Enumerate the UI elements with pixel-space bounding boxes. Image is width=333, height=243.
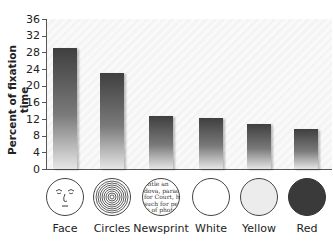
y-tick-label: 12 bbox=[18, 114, 40, 125]
bar-yellow bbox=[247, 124, 271, 169]
y-tick bbox=[42, 152, 46, 153]
yellow-disc-icon bbox=[240, 178, 278, 216]
y-tick bbox=[42, 36, 46, 37]
y-tick bbox=[42, 69, 46, 70]
y-tick bbox=[42, 136, 46, 137]
y-tick-label: 4 bbox=[18, 147, 40, 158]
white-disc-icon bbox=[192, 178, 230, 216]
y-tick bbox=[42, 102, 46, 103]
plot-area bbox=[46, 19, 332, 169]
y-tick bbox=[42, 86, 46, 87]
red-disc-icon bbox=[288, 178, 326, 216]
y-tick-label: 20 bbox=[18, 80, 40, 91]
y-tick bbox=[42, 119, 46, 120]
concentric-circles-icon bbox=[93, 178, 131, 216]
bar-newsprint bbox=[149, 116, 173, 169]
y-tick-label: 8 bbox=[18, 130, 40, 141]
y-tick-label: 0 bbox=[18, 164, 40, 175]
bar-red bbox=[294, 129, 318, 169]
y-axis bbox=[46, 19, 47, 169]
y-tick-label: 36 bbox=[18, 14, 40, 25]
face-icon bbox=[46, 178, 84, 216]
x-axis bbox=[46, 169, 332, 170]
y-tick bbox=[42, 169, 46, 170]
bar-white bbox=[199, 118, 223, 169]
x-label-red: Red bbox=[277, 222, 333, 235]
y-tick bbox=[42, 52, 46, 53]
bar-circles bbox=[100, 73, 124, 169]
y-tick-label: 28 bbox=[18, 47, 40, 58]
y-tick-label: 32 bbox=[18, 30, 40, 41]
y-tick-label: 16 bbox=[18, 97, 40, 108]
newsprint-icon: ontle an dova, parade for Court, hol suc… bbox=[142, 178, 180, 216]
bar-face bbox=[53, 48, 77, 169]
y-tick bbox=[42, 19, 46, 20]
y-tick-label: 24 bbox=[18, 64, 40, 75]
